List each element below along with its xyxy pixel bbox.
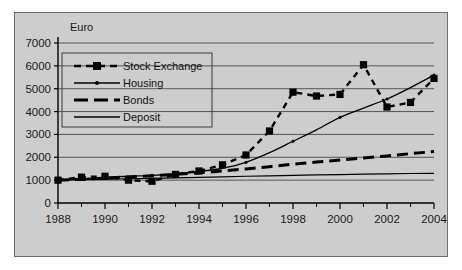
series-marker-stock-exchange [383, 103, 390, 110]
series-marker-stock-exchange [360, 61, 367, 68]
series-marker-housing [385, 97, 388, 100]
line-chart: 7000600050004000300020001000019881990199… [15, 13, 449, 258]
series-marker-stock-exchange [125, 177, 132, 184]
legend-label-stock-exchange: Stock Exchange [123, 60, 203, 72]
legend-item-deposit[interactable]: Deposit [74, 111, 160, 123]
y-tick-label: 2000 [25, 151, 51, 163]
x-tick-label: 2002 [374, 213, 400, 225]
series-marker-housing [150, 174, 153, 177]
y-tick-label: 7000 [25, 37, 51, 49]
x-tick-label: 1990 [92, 213, 118, 225]
y-tick-label: 5000 [25, 83, 51, 95]
y-tick-label: 4000 [25, 106, 51, 118]
y-axis-unit-label: Euro [70, 21, 93, 33]
series-marker-stock-exchange [78, 174, 85, 181]
series-marker-housing [338, 116, 341, 119]
legend-swatch-marker-housing [95, 81, 99, 85]
series-marker-stock-exchange [148, 178, 155, 185]
series-marker-stock-exchange [101, 173, 108, 180]
x-tick-label: 1998 [280, 213, 306, 225]
x-tick-label: 2000 [327, 213, 353, 225]
y-tick-label: 3000 [25, 128, 51, 140]
legend-item-stock-exchange[interactable]: Stock Exchange [74, 60, 203, 72]
y-tick-label: 0 [45, 197, 51, 209]
series-marker-stock-exchange [407, 99, 414, 106]
series-marker-stock-exchange [219, 161, 226, 168]
legend-label-bonds: Bonds [123, 94, 155, 106]
x-tick-label: 1994 [186, 213, 212, 225]
chart-screenshot: 7000600050004000300020001000019881990199… [0, 0, 462, 270]
series-marker-housing [291, 140, 294, 143]
series-marker-stock-exchange [242, 151, 249, 158]
x-tick-label: 1996 [233, 213, 259, 225]
y-tick-label: 1000 [25, 174, 51, 186]
chart-legend: Stock ExchangeHousingBondsDeposit [62, 53, 212, 127]
legend-swatch-marker-stock-exchange [93, 62, 101, 70]
x-tick-label: 2004 [421, 213, 447, 225]
y-tick-label: 6000 [25, 60, 51, 72]
x-tick-label: 1988 [45, 213, 71, 225]
series-marker-stock-exchange [172, 171, 179, 178]
legend-item-housing[interactable]: Housing [74, 77, 163, 89]
series-marker-stock-exchange [54, 177, 61, 184]
series-marker-stock-exchange [195, 167, 202, 174]
x-tick-label: 1992 [139, 213, 165, 225]
legend-label-deposit: Deposit [123, 111, 160, 123]
series-marker-stock-exchange [266, 127, 273, 134]
series-marker-housing [244, 161, 247, 164]
legend-item-bonds[interactable]: Bonds [74, 94, 155, 106]
series-marker-stock-exchange [313, 92, 320, 99]
series-marker-stock-exchange [289, 89, 296, 96]
legend-label-housing: Housing [123, 77, 163, 89]
series-marker-stock-exchange [430, 75, 437, 82]
chart-panel: 7000600050004000300020001000019881990199… [14, 12, 448, 257]
series-marker-stock-exchange [336, 91, 343, 98]
